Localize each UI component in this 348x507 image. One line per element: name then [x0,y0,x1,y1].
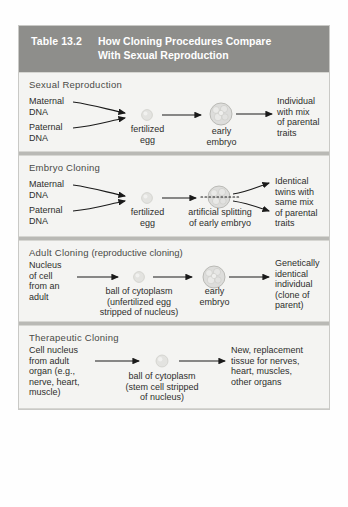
diagram-embryo-cloning: Maternal DNA Paternal DNA fertilized egg… [29,177,321,229]
label-maternal-dna-embryo: Maternal DNA [29,179,64,200]
label-maternal-dna-sexual: Maternal DNA [29,96,64,117]
label-cell-nucleus-source-therapeutic: Cell nucleus from adult organ (e.g., ner… [29,345,95,398]
label-outcome-therapeutic: New, replacement tissue for nerves, hear… [231,345,327,387]
diagram-sexual-reproduction: Maternal DNA Paternal DNA fertilized egg… [29,94,321,144]
section-heading-adult-cloning: Adult Cloning (reproductive cloning) [29,247,321,258]
label-nucleus-source-adult: Nucleus of cell from an adult [29,260,75,302]
label-early-embryo-adult: early embryo [192,286,237,307]
label-paternal-dna-embryo: Paternal DNA [29,205,63,226]
label-outcome-embryo: Identical twins with same mix of parenta… [275,176,329,229]
label-early-embryo-sexual: early embryo [199,126,244,147]
diagram-adult-cloning: Nucleus of cell from an adult ball of cy… [29,262,321,314]
page-root: Table 13.2 How Cloning Procedures Compar… [0,0,348,507]
label-ball-of-cytoplasm-adult: ball of cytoplasm (unfertilized egg stri… [81,286,197,318]
section-heading-sexual-reproduction: Sexual Reproduction [29,79,321,90]
early-embryo-cell [210,103,232,125]
splitting-embryo-cell [201,186,239,208]
diagram-therapeutic-cloning: Cell nucleus from adult organ (e.g., ner… [29,347,321,401]
section-heading-adult-cloning-main: Adult Cloning [29,247,89,258]
label-ball-of-cytoplasm-therapeutic: ball of cytoplasm (stem cell stripped of… [97,371,227,403]
early-embryo-cell-adult [203,266,225,288]
label-paternal-dna-sexual: Paternal DNA [29,122,63,143]
section-sexual-reproduction: Sexual Reproduction [19,72,329,152]
table-title: How Cloning Procedures Compare With Sexu… [98,35,271,62]
table-number: Table 13.2 [31,35,82,47]
table-title-line-1: How Cloning Procedures Compare [98,35,271,49]
section-heading-therapeutic-cloning: Therapeutic Cloning [29,332,321,343]
section-heading-embryo-cloning: Embryo Cloning [29,162,321,173]
label-fertilized-egg-sexual: fertilized egg [125,124,170,145]
figure-table: Table 13.2 How Cloning Procedures Compar… [18,25,330,410]
section-embryo-cloning: Embryo Cloning [19,155,329,237]
section-heading-adult-cloning-paren: (reproductive cloning) [89,247,183,258]
table-body: Sexual Reproduction [19,72,329,409]
label-artificial-splitting: artificial splitting of early embryo [174,207,266,228]
label-fertilized-egg-embryo: fertilized egg [125,207,170,228]
section-adult-cloning: Adult Cloning (reproductive cloning) [19,240,329,322]
section-therapeutic-cloning: Therapeutic Cloning Cell nucleu [19,325,329,409]
table-title-line-2: With Sexual Reproduction [98,49,271,63]
label-outcome-sexual: Individual with mix of parental traits [277,96,329,138]
label-outcome-adult: Genetically identical individual (clone … [275,258,331,311]
table-header: Table 13.2 How Cloning Procedures Compar… [19,26,329,72]
